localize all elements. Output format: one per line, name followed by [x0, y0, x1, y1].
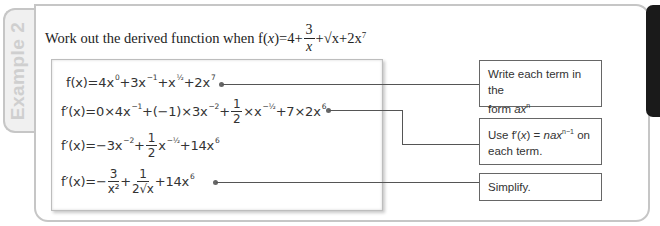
equation-line-4: f′(x)=− 3x² + 12√x +14x6 [61, 168, 195, 195]
connector-line-2b [402, 110, 403, 144]
equation-line-2: f′(x)= 0×4x−1 +(−1)×3x−2 + 12 ×x−½ +7×2x… [61, 98, 326, 125]
note-simplify: Simplify. [479, 173, 602, 201]
connector-line-1 [222, 84, 479, 85]
example-tab-label: Example 2 [3, 8, 34, 133]
equation-line-3: f′(x)= −3x−2 + 12 x−½ +14x6 [61, 132, 220, 159]
note-use-derivative-rule: Use f′(x) = naxn−1 on each term. [479, 118, 602, 165]
note-write-each-term: Write each term in the form axn [479, 60, 602, 107]
question-text: Work out the derived function when f(x)=… [45, 23, 366, 54]
connector-line-3 [216, 182, 479, 183]
connector-line-2c [402, 144, 479, 145]
chapter-side-tab [646, 5, 660, 117]
equation-line-1: f(x)= 4x0 +3x−1 +x½ +2x7 [66, 75, 216, 90]
connector-line-2a [329, 110, 402, 111]
fraction-3-over-x: 3 x [304, 23, 315, 54]
